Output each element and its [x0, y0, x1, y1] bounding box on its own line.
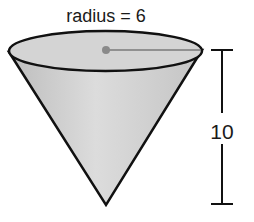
radius-label: radius = 6	[66, 6, 146, 26]
height-label: 10	[210, 120, 233, 143]
cone-body	[9, 50, 202, 205]
center-dot	[102, 46, 110, 54]
cone-diagram: radius = 6 10	[0, 0, 254, 222]
